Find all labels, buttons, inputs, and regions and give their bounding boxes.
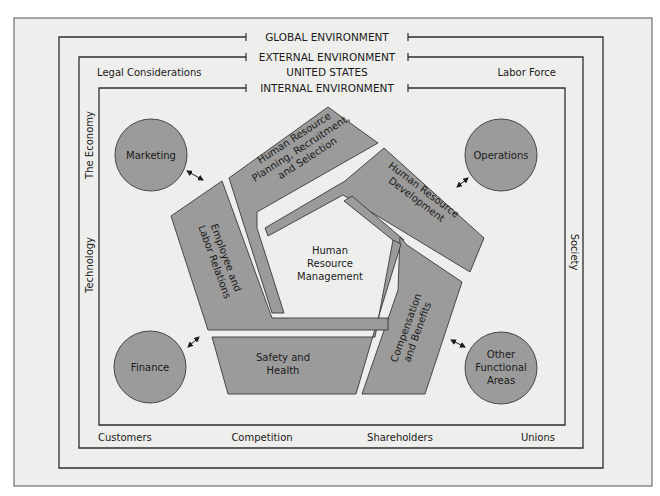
- other-functional-areas-circle: Other Functional Areas: [465, 332, 537, 404]
- factor-legal-considerations: Legal Considerations: [97, 67, 202, 78]
- factor-society: Society: [569, 234, 580, 271]
- svg-text:Areas: Areas: [487, 375, 515, 386]
- internal-environment-label: INTERNAL ENVIRONMENT: [260, 82, 394, 94]
- factor-shareholders: Shareholders: [367, 432, 433, 443]
- united-states-label: UNITED STATES: [286, 66, 368, 78]
- svg-text:Other: Other: [487, 349, 516, 360]
- global-environment-label: GLOBAL ENVIRONMENT: [265, 31, 389, 43]
- svg-text:Functional: Functional: [475, 362, 526, 373]
- operations-circle: Operations: [465, 119, 537, 191]
- svg-text:Marketing: Marketing: [126, 150, 176, 161]
- finance-circle: Finance: [114, 331, 186, 403]
- svg-text:Safety and: Safety and: [256, 352, 310, 363]
- svg-text:Human: Human: [312, 245, 348, 256]
- factor-unions: Unions: [521, 432, 555, 443]
- svg-text:Operations: Operations: [474, 150, 529, 161]
- svg-text:Resource: Resource: [307, 258, 353, 269]
- factor-customers: Customers: [98, 432, 152, 443]
- factor-the-economy: The Economy: [84, 111, 95, 180]
- svg-text:Management: Management: [297, 271, 363, 282]
- svg-text:Health: Health: [267, 365, 300, 376]
- svg-text:Finance: Finance: [131, 362, 169, 373]
- factor-technology: Technology: [84, 237, 95, 294]
- marketing-circle: Marketing: [115, 119, 187, 191]
- factor-competition: Competition: [231, 432, 292, 443]
- hrm-environment-diagram: GLOBAL ENVIRONMENT EXTERNAL ENVIRONMENT …: [0, 0, 660, 496]
- factor-labor-force: Labor Force: [497, 67, 556, 78]
- external-environment-label: EXTERNAL ENVIRONMENT: [259, 51, 396, 63]
